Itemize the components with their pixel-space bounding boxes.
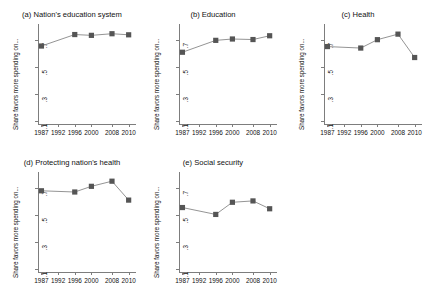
data-point-marker [72,32,77,37]
series-line [143,10,283,150]
data-point-marker [89,184,94,189]
data-point-marker [267,33,272,38]
series-line [143,158,283,303]
data-point-marker [109,179,114,184]
data-point-marker [358,45,363,50]
data-point-marker [126,198,131,203]
data-point-marker [325,44,330,49]
data-point-marker [375,37,380,42]
data-point-marker [412,55,417,60]
series-line [2,10,142,150]
data-point-marker [250,37,255,42]
small-multiples-figure: (a) Nation's education systemShare favor… [0,0,430,305]
chart-panel-2: (b) EducationShare favors more spending … [143,10,283,150]
data-point-marker [213,212,218,217]
chart-panel-4: (d) Protecting nation's healthShare favo… [2,158,142,303]
data-point-marker [230,36,235,41]
data-point-marker [180,50,185,55]
data-point-marker [39,43,44,48]
data-point-marker [267,206,272,211]
data-point-marker [250,198,255,203]
data-point-marker [213,38,218,43]
data-point-marker [230,200,235,205]
data-point-marker [39,188,44,193]
data-point-marker [109,31,114,36]
chart-panel-1: (a) Nation's education systemShare favor… [2,10,142,150]
data-point-marker [72,189,77,194]
data-point-marker [180,205,185,210]
series-line [288,10,428,150]
data-point-marker [126,32,131,37]
chart-panel-5: (e) Social securityShare favors more spe… [143,158,283,303]
chart-panel-3: (c) HealthShare favors more spending on.… [288,10,428,150]
series-line [2,158,142,303]
data-point-marker [89,33,94,38]
data-point-marker [395,32,400,37]
